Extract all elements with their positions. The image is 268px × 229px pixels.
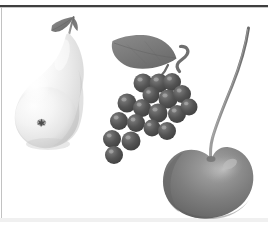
grape-berry <box>181 99 198 116</box>
grape-berry <box>122 132 141 151</box>
grape-berry <box>158 122 176 140</box>
cherry-stem-socket <box>207 156 216 162</box>
figure-canvas: Fruit Illustration <box>0 0 268 229</box>
grape-berry <box>144 120 161 137</box>
left-vertical-rule <box>1 7 2 222</box>
grape-berry <box>105 146 123 164</box>
pear-contact-shadow <box>26 138 70 150</box>
grape-berry <box>127 114 145 132</box>
top-rule-shadow <box>0 7 268 8</box>
grape-berry <box>110 112 128 130</box>
top-horizontal-rule <box>0 5 268 7</box>
grape-berry <box>103 130 121 148</box>
bottom-horizontal-rule <box>0 218 268 222</box>
fruit-illustration-svg <box>0 0 268 229</box>
